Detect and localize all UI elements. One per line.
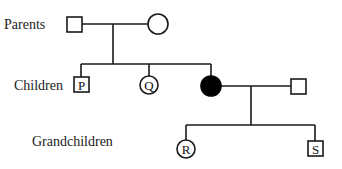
affected-daughter-circle (201, 76, 221, 96)
label-parents: Parents (4, 17, 45, 32)
spouse-male-square (291, 79, 306, 94)
child-q-label: Q (144, 78, 154, 93)
grandchild-s-label: S (312, 142, 319, 157)
child-p-label: P (78, 78, 85, 93)
pedigree-chart: Parents Children Grandchildren P Q R S (0, 0, 342, 169)
label-children: Children (14, 78, 63, 93)
parent-female-circle (148, 14, 168, 34)
parent-male-square (67, 17, 82, 32)
label-grandchildren: Grandchildren (32, 134, 113, 149)
grandchild-r-label: R (182, 142, 191, 157)
